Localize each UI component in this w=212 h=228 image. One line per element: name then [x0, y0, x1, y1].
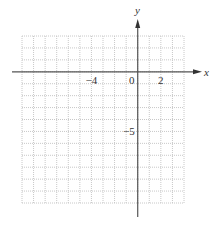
- y-tick-label: −5: [123, 125, 135, 137]
- x-tick-label: −4: [86, 74, 98, 86]
- x-tick-label: 0: [129, 74, 135, 86]
- y-axis-label: y: [134, 4, 140, 16]
- axes: [12, 19, 202, 217]
- x-tick-label: 2: [158, 74, 164, 86]
- grid-lines: [22, 36, 184, 203]
- x-axis-label: x: [203, 66, 209, 78]
- coordinate-grid: −402−5 x y: [0, 0, 212, 228]
- y-axis-arrow-icon: [135, 19, 140, 28]
- x-axis-arrow-icon: [193, 69, 202, 74]
